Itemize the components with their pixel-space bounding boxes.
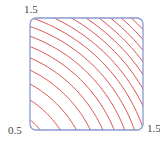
contour-lines (0, 0, 160, 148)
contour-line (0, 0, 160, 148)
contour-line (0, 8, 153, 148)
contour-plot (0, 0, 160, 148)
y-max-label: 1.5 (24, 4, 38, 15)
x-max-label: 1.5 (147, 123, 160, 134)
origin-label: 0.5 (8, 125, 22, 136)
contour-line (0, 83, 77, 148)
